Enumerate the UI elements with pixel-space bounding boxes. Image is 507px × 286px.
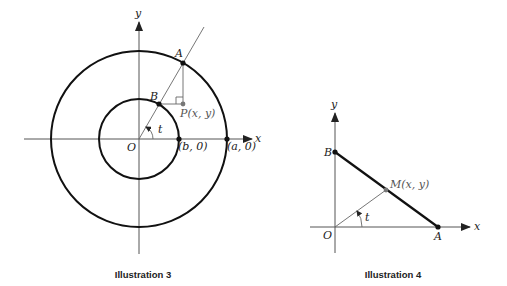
point-P-label: P(x, y): [179, 107, 215, 120]
point-M: [384, 188, 389, 193]
point-B: [332, 149, 337, 154]
angle-label: t: [365, 211, 370, 224]
point-P: [181, 102, 186, 107]
ray-line: [139, 27, 204, 139]
angle-arc: [146, 127, 153, 139]
point-A: [435, 224, 440, 229]
diagram-canvas: x y t A B P(x, y) O (b, 0) (a, 0) Illust…: [0, 0, 507, 286]
angle-arc: [357, 211, 362, 227]
point-B-label: B: [149, 90, 158, 103]
illustration-3: x y t A B P(x, y) O (b, 0) (a, 0) Illust…: [24, 7, 262, 280]
point-B-label: B: [323, 146, 332, 159]
segment-O-M: [335, 190, 386, 227]
origin-label: O: [323, 229, 332, 242]
y-axis-label: y: [330, 98, 338, 111]
x-axis-label: x: [474, 220, 481, 233]
point-M-label: M(x, y): [389, 178, 429, 191]
point-A-label: A: [174, 47, 183, 60]
point-A-label: A: [433, 230, 442, 243]
point-a0-label: (a, 0): [227, 140, 256, 153]
angle-label: t: [158, 123, 163, 136]
point-A: [180, 60, 185, 65]
y-axis-label: y: [134, 7, 142, 20]
illustration-4: x y t B A M(x, y) O Illustration 4: [310, 98, 481, 280]
caption-illustration-4: Illustration 4: [365, 269, 422, 280]
origin-label: O: [127, 141, 136, 154]
caption-illustration-3: Illustration 3: [115, 269, 171, 280]
point-b0-label: (b, 0): [178, 140, 208, 153]
